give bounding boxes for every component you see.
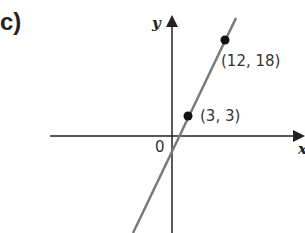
graph-line — [133, 18, 236, 233]
point-label-12-18: (12, 18) — [221, 52, 280, 70]
point-label-3-3: (3, 3) — [200, 107, 240, 125]
y-axis-label: y — [152, 14, 161, 32]
graph — [0, 0, 305, 233]
x-axis-label: x — [298, 140, 305, 158]
point-12-18 — [221, 36, 230, 45]
origin-label: 0 — [155, 138, 165, 156]
point-3-3 — [184, 112, 193, 121]
